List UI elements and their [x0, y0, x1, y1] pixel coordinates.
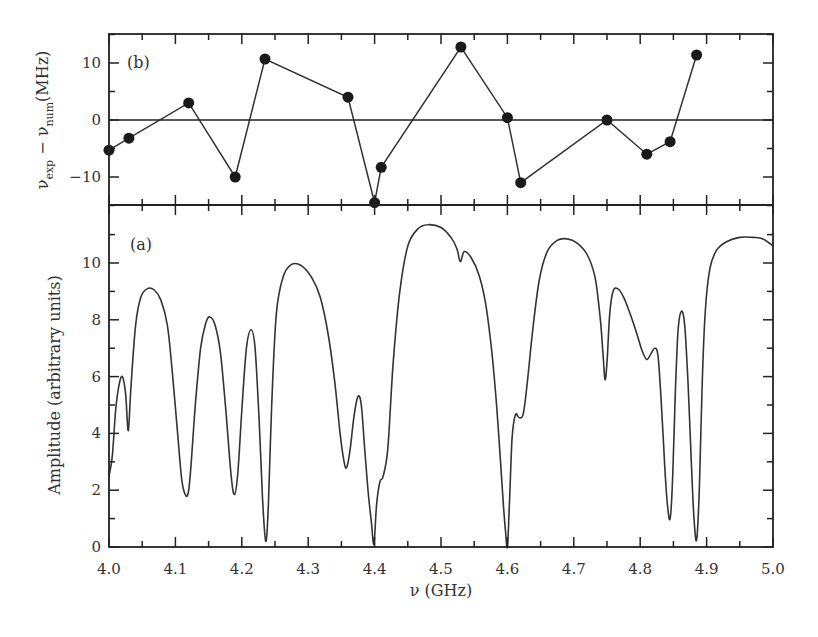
- panel-b-ticks: −10010: [69, 34, 773, 215]
- y-tick-label: 8: [91, 311, 101, 329]
- amplitude-curve: [109, 225, 773, 548]
- residual-point: [376, 162, 387, 173]
- residual-point: [230, 172, 241, 183]
- residual-point: [123, 133, 134, 144]
- y-tick-label: 4: [91, 424, 101, 442]
- y-tick-label: 0: [91, 538, 101, 556]
- residual-point: [691, 50, 702, 61]
- x-tick-label: 4.0: [97, 560, 121, 578]
- residual-point: [515, 177, 526, 188]
- x-tick-label: 5.0: [761, 560, 785, 578]
- y-tick-label: −10: [69, 168, 101, 186]
- residual-point: [665, 136, 676, 147]
- x-tick-label: 4.8: [628, 560, 652, 578]
- residual-point: [343, 92, 354, 103]
- panel-a-ticks: 4.04.14.24.34.44.54.64.74.84.95.00246810: [82, 235, 785, 578]
- y-tick-label: 10: [82, 254, 101, 272]
- y-tick-label: 2: [91, 481, 101, 499]
- residual-point: [641, 149, 652, 160]
- x-tick-label: 4.3: [296, 560, 320, 578]
- panel-a-amplitude: 4.04.14.24.34.44.54.64.74.84.95.00246810…: [45, 225, 785, 578]
- y-tick-label: 6: [91, 368, 101, 386]
- y-tick-label: 10: [82, 54, 101, 72]
- x-tick-label: 4.9: [695, 560, 719, 578]
- x-tick-label: 4.1: [163, 560, 187, 578]
- y-tick-label: 0: [91, 111, 101, 129]
- residual-point: [455, 42, 466, 53]
- panel-a-label: (a): [130, 235, 152, 254]
- panel-b-y-axis-title: νexp − νnum(MHz): [33, 51, 56, 190]
- x-tick-label: 4.6: [495, 560, 519, 578]
- residual-point: [183, 97, 194, 108]
- panel-b-residuals: −10010 (b) νexp − νnum(MHz): [33, 34, 773, 215]
- residual-point: [502, 112, 513, 123]
- panel-a-y-axis-title: Amplitude (arbitrary units): [45, 275, 64, 496]
- x-tick-label: 4.2: [230, 560, 254, 578]
- x-tick-label: 4.7: [562, 560, 586, 578]
- residual-series: [104, 42, 703, 209]
- x-axis-title: ν (GHz): [410, 581, 472, 600]
- residual-point: [260, 54, 271, 65]
- x-tick-label: 4.4: [363, 560, 387, 578]
- panel-b-label: (b): [127, 53, 150, 72]
- figure: −10010 (b) νexp − νnum(MHz) 4.04.14.24.3…: [0, 0, 818, 637]
- x-tick-label: 4.5: [429, 560, 453, 578]
